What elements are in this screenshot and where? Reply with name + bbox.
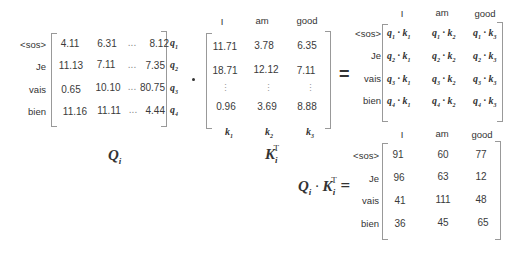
num-col-header: am [430,128,454,139]
num-cell: 12 [470,171,492,182]
q-cell: 8.12 [141,38,169,49]
q-cell: 80.75 [134,82,165,93]
sym-row-label: bien [363,95,381,106]
num-cell: 45 [432,217,454,228]
k1-label: k1 [225,126,233,139]
num-col-header: good [467,129,497,140]
q-row-label: Je [36,61,46,72]
q-cell: 11.13 [57,60,85,71]
k-cell: 3.69 [253,101,281,112]
num-cell: 48 [470,194,492,205]
q4-label: q4 [170,104,178,117]
num-cell: 77 [470,149,492,160]
num-cell: 65 [472,217,494,228]
k3-label: k3 [306,126,314,139]
sym-right-bracket [497,22,503,122]
sym-cell: q3 · k3 [473,73,497,86]
num-row-label: bien [361,218,379,229]
num-cell: 63 [432,171,454,182]
k-vdots: ⋮ [218,83,232,93]
k-col-header: good [292,15,322,26]
k2-label: k2 [265,126,273,139]
k-cell: 0.96 [211,101,241,112]
sym-row-label: vais [364,73,381,84]
k-cell: 7.11 [292,65,320,76]
sym-cell: q4 · k3 [473,95,497,108]
k-cell: 8.88 [293,101,321,112]
sym-cell: q4 · k2 [432,95,456,108]
num-row-label: Je [369,173,379,184]
k-transpose-title: KiT [265,145,279,165]
q-row-label: <sos> [20,39,46,50]
num-cell: 96 [389,172,409,183]
k-cell: 3.78 [250,40,278,51]
q-row-label: bien [28,106,46,117]
sym-col-header: I [392,8,412,19]
num-cell: 60 [432,149,454,160]
q-matrix-title: Qi [108,147,121,166]
q-cell: 11.16 [61,106,89,117]
sym-cell: q1 · k3 [473,27,497,40]
num-cell: 36 [390,218,410,229]
k-col-header: I [212,16,232,27]
sym-cell: q2 · k3 [473,50,497,63]
k-vdots: ⋮ [261,83,275,93]
sym-cell: q1 · k1 [387,27,411,40]
sym-cell: q4 · k1 [387,95,411,108]
k-cell: 18.71 [210,65,240,76]
sym-cell: q3 · k1 [387,73,411,86]
q3-label: q3 [170,82,178,95]
k-col-header: am [250,15,274,26]
qk-equation: Qi · KiT = [298,176,350,197]
sym-cell: q3 · k2 [432,73,456,86]
k-cell: 11.71 [210,41,240,52]
sym-row-label: Je [371,50,381,61]
num-row-label: <sos> [353,150,379,161]
num-col-header: I [392,129,412,140]
q-cell: 11.11 [95,105,123,116]
q-cell: 0.65 [58,84,84,95]
k-cell: 12.12 [251,64,281,75]
q-cell: 4.44 [137,105,165,116]
equals-sign: = [339,64,350,85]
num-cell: 41 [390,195,410,206]
q-cell: 10.10 [93,82,123,93]
q-cell: 4.11 [56,38,84,49]
k-vdots: ⋮ [303,83,317,93]
sym-row-label: <sos> [355,28,381,39]
sym-col-header: am [430,7,454,18]
sym-col-header: good [470,8,500,19]
multiply-dot [192,78,195,81]
q-cell: 7.11 [92,59,120,70]
k-cell: 6.35 [293,40,321,51]
num-right-bracket [495,141,501,240]
q-row-label: vais [29,84,46,95]
q2-label: q2 [170,59,178,72]
sym-cell: q2 · k2 [432,50,456,63]
num-row-label: vais [362,195,379,206]
q1-label: q1 [170,37,178,50]
q-ellipsis: ... [125,37,139,48]
q-cell: 7.35 [137,60,165,71]
num-cell: 91 [388,149,408,160]
q-cell: 6.31 [93,38,121,49]
k-right-bracket [325,31,331,129]
sym-cell: q2 · k1 [387,50,411,63]
sym-cell: q1 · k2 [432,27,456,40]
num-cell: 111 [432,194,454,205]
